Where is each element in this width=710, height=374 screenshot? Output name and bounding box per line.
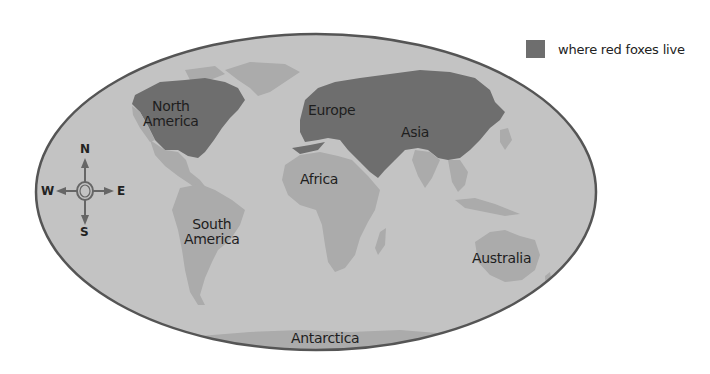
label-africa: Africa <box>300 172 338 187</box>
label-south-america: South America <box>184 217 240 247</box>
legend-swatch-fox-range <box>526 40 545 58</box>
label-europe: Europe <box>308 103 355 118</box>
compass-west-label: W <box>41 184 54 198</box>
label-antarctica: Antarctica <box>291 331 359 346</box>
label-asia: Asia <box>401 125 429 140</box>
label-north-america: North America <box>143 99 199 129</box>
label-australia: Australia <box>472 251 531 266</box>
map-legend: where red foxes live <box>526 40 685 58</box>
label-north-america-line2: America <box>143 114 199 129</box>
label-south-america-line2: America <box>184 232 240 247</box>
label-north-america-line1: North <box>143 99 199 114</box>
label-south-america-line1: South <box>184 217 240 232</box>
compass-east-label: E <box>117 184 125 198</box>
compass-south-label: S <box>80 225 89 239</box>
legend-label: where red foxes live <box>558 42 685 57</box>
compass-north-label: N <box>80 142 90 156</box>
